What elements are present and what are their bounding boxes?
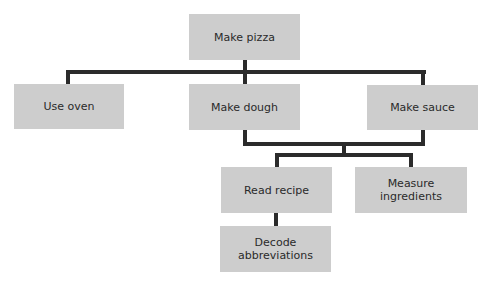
node-measure-ingredients: Measure ingredients xyxy=(355,167,467,213)
node-decode-abbreviations: Decode abbreviations xyxy=(220,226,331,272)
connector-measure xyxy=(409,153,413,167)
node-read-recipe: Read recipe xyxy=(221,167,332,213)
node-make-pizza: Make pizza xyxy=(189,14,300,60)
connector-decode xyxy=(274,213,278,226)
connector-read-recipe xyxy=(275,153,279,167)
node-use-oven: Use oven xyxy=(14,84,124,129)
node-make-dough: Make dough xyxy=(189,84,300,130)
connector-use-oven xyxy=(66,70,70,84)
node-make-sauce: Make sauce xyxy=(367,85,478,130)
connector-level2-bar xyxy=(275,153,413,157)
connector-merge-bar xyxy=(243,142,425,146)
connector-make-sauce xyxy=(421,70,425,85)
connector-level1-bar xyxy=(66,70,426,74)
